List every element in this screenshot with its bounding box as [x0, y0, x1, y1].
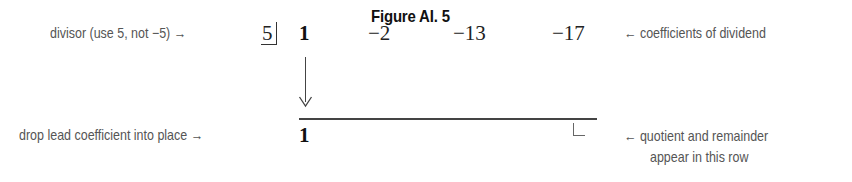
result-annotation-line1: ← quotient and remainder [624, 126, 768, 146]
result-annotation-line2: appear in this row [650, 147, 748, 167]
result-line [299, 118, 597, 120]
coefficients-annotation: ← coefficients of dividend [624, 25, 766, 41]
drop-annotation: drop lead coefficient into place → [19, 127, 203, 143]
divisor-value: 5 [262, 21, 273, 45]
divisor-box: 5 [261, 22, 277, 45]
coefficient-3: −13 [453, 21, 486, 46]
quotient-lead: 1 [299, 123, 310, 148]
coefficient-1: 1 [299, 21, 310, 46]
divisor-annotation: divisor (use 5, not −5) → [50, 25, 186, 41]
remainder-box [573, 123, 585, 136]
coefficient-2: −2 [368, 21, 390, 46]
down-arrow-icon [298, 94, 313, 108]
coefficient-4: −17 [552, 21, 585, 46]
